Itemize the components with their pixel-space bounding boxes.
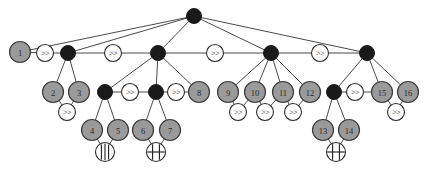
node-circle [61, 46, 76, 61]
sequence-operator-icon[interactable]: >> [59, 104, 76, 121]
sequence-operator-icon[interactable]: >> [105, 45, 122, 62]
node-layer: 1>>>>>>>>23>>>>>>845679>>10>>11>>12>>151… [10, 9, 419, 162]
task-node[interactable]: 12 [300, 82, 321, 103]
junction-node[interactable] [360, 46, 375, 61]
node-circle [151, 46, 166, 61]
node-circle [360, 46, 375, 61]
diagram-canvas: 1>>>>>>>>23>>>>>>845679>>10>>11>>12>>151… [0, 0, 425, 170]
operator-glyph-icon[interactable] [327, 143, 346, 162]
sequence-operator-icon[interactable]: >> [168, 84, 185, 101]
task-node[interactable]: 3 [69, 82, 90, 103]
node-label: 9 [226, 88, 230, 98]
graph-edge [194, 16, 271, 53]
node-circle [149, 85, 164, 100]
sequence-glyph-label: >> [126, 88, 135, 97]
task-node[interactable]: 5 [108, 120, 129, 141]
sequence-glyph-label: >> [392, 108, 401, 117]
node-label: 3 [77, 88, 81, 98]
node-label: 13 [319, 126, 328, 136]
task-node[interactable]: 1 [10, 42, 31, 63]
junction-node[interactable] [187, 9, 202, 24]
sequence-operator-icon[interactable]: >> [230, 104, 247, 121]
node-label: 6 [141, 126, 145, 136]
sequence-glyph-label: >> [63, 108, 72, 117]
junction-node[interactable] [98, 85, 113, 100]
junction-node[interactable] [264, 46, 279, 61]
task-node[interactable]: 14 [339, 120, 360, 141]
node-circle [264, 46, 279, 61]
sequence-operator-icon[interactable]: >> [347, 84, 364, 101]
node-circle [98, 85, 113, 100]
task-node[interactable]: 9 [218, 82, 239, 103]
task-node[interactable]: 6 [133, 120, 154, 141]
task-node[interactable]: 7 [160, 120, 181, 141]
sequence-glyph-label: >> [109, 49, 118, 58]
sequence-operator-icon[interactable]: >> [122, 84, 139, 101]
task-node[interactable]: 8 [189, 82, 210, 103]
tree-graph: 1>>>>>>>>23>>>>>>845679>>10>>11>>12>>151… [0, 0, 425, 170]
junction-node[interactable] [149, 85, 164, 100]
junction-node[interactable] [61, 46, 76, 61]
junction-node[interactable] [327, 85, 342, 100]
node-label: 15 [378, 88, 387, 98]
task-node[interactable]: 4 [82, 120, 103, 141]
junction-node[interactable] [151, 46, 166, 61]
operator-glyph-icon[interactable] [147, 143, 166, 162]
sequence-operator-icon[interactable]: >> [37, 45, 54, 62]
node-label: 5 [116, 126, 120, 136]
node-label: 8 [197, 88, 201, 98]
task-node[interactable]: 16 [398, 82, 419, 103]
sequence-glyph-label: >> [316, 49, 325, 58]
task-node[interactable]: 11 [273, 82, 294, 103]
node-label: 14 [345, 126, 354, 136]
task-node[interactable]: 2 [43, 82, 64, 103]
node-label: 10 [251, 88, 260, 98]
node-label: 2 [51, 88, 55, 98]
sequence-glyph-label: >> [211, 49, 220, 58]
sequence-operator-icon[interactable]: >> [257, 104, 274, 121]
task-node[interactable]: 15 [372, 82, 393, 103]
sequence-glyph-label: >> [172, 88, 181, 97]
sequence-glyph-label: >> [261, 108, 270, 117]
sequence-operator-icon[interactable]: >> [285, 104, 302, 121]
node-label: 7 [168, 126, 172, 136]
sequence-glyph-label: >> [351, 88, 360, 97]
sequence-glyph-label: >> [41, 49, 50, 58]
node-label: 16 [404, 88, 413, 98]
node-label: 11 [279, 88, 287, 98]
sequence-operator-icon[interactable]: >> [388, 104, 405, 121]
node-label: 1 [18, 48, 22, 58]
task-node[interactable]: 13 [313, 120, 334, 141]
node-circle [327, 85, 342, 100]
sequence-operator-icon[interactable]: >> [207, 45, 224, 62]
node-label: 12 [306, 88, 315, 98]
sequence-glyph-label: >> [234, 108, 243, 117]
node-circle [187, 9, 202, 24]
task-node[interactable]: 10 [245, 82, 266, 103]
graph-edge [68, 16, 194, 53]
operator-glyph-icon[interactable] [96, 143, 115, 162]
sequence-operator-icon[interactable]: >> [312, 45, 329, 62]
sequence-glyph-label: >> [289, 108, 298, 117]
